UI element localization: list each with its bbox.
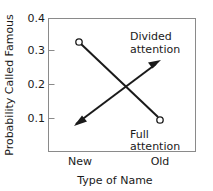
- full-attention-label: Full attention: [130, 128, 180, 153]
- plot-frame: [49, 19, 196, 152]
- y-tick-label-0.2: 0.2: [28, 78, 46, 91]
- divided-attention-label-line1: Divided: [130, 30, 172, 43]
- divided-attention-label-line2: attention: [130, 43, 180, 56]
- chart-canvas: 0.4 0.3 0.2 0.1 Probability Called Famou…: [0, 0, 213, 191]
- series-divided-attention: [76, 60, 161, 124]
- divided-attention-line: [76, 64, 156, 124]
- y-axis-ticks: [49, 51, 55, 119]
- data-point-old-full: [157, 117, 163, 123]
- data-point-new-full: [76, 39, 82, 45]
- y-tick-label-0.4: 0.4: [28, 12, 46, 25]
- chart-figure: 0.4 0.3 0.2 0.1 Probability Called Famou…: [0, 0, 213, 191]
- y-tick-label-0.1: 0.1: [28, 112, 46, 125]
- x-axis-title: Type of Name: [76, 174, 153, 187]
- full-attention-label-line2: attention: [130, 140, 180, 153]
- divided-attention-label: Divided attention: [130, 30, 180, 56]
- y-axis-title: Probability Called Famous: [3, 14, 16, 156]
- x-tick-label-new: New: [68, 155, 92, 168]
- x-tick-label-old: Old: [151, 155, 170, 168]
- divided-attention-arrowhead: [148, 60, 161, 69]
- y-tick-label-0.3: 0.3: [28, 44, 46, 57]
